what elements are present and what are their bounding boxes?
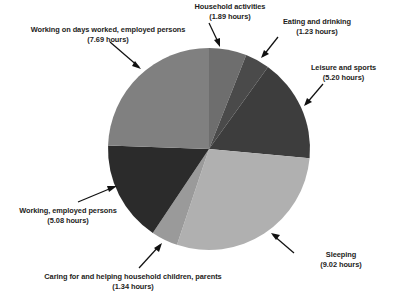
pie-label-caring-for-household-children-name: Caring for and helping household childre… xyxy=(44,272,221,281)
pie-label-working-employed-persons-name: Working, employed persons xyxy=(19,206,117,215)
pie-label-working-on-days-worked: Working on days worked, employed persons… xyxy=(3,25,213,45)
pie-slice-group xyxy=(108,48,310,250)
pie-label-working-on-days-worked-name: Working on days worked, employed persons xyxy=(31,25,186,34)
pie-chart: Working on days worked, employed persons… xyxy=(0,0,393,297)
pie-label-sleeping-name: Sleeping xyxy=(326,250,356,259)
pie-label-caring-for-household-children-value: (1.34 hours) xyxy=(18,282,248,292)
arrowhead-eating xyxy=(261,50,269,58)
pie-label-sleeping-value: (9.02 hours) xyxy=(295,260,387,270)
pie-label-sleeping: Sleeping (9.02 hours) xyxy=(295,250,387,270)
pie-label-eating-and-drinking-value: (1.23 hours) xyxy=(258,27,376,37)
pie-label-working-employed-persons-value: (5.08 hours) xyxy=(2,216,134,226)
pie-label-eating-and-drinking: Eating and drinking (1.23 hours) xyxy=(258,17,376,37)
pie-label-eating-and-drinking-name: Eating and drinking xyxy=(283,17,351,26)
arrowhead-working-emp xyxy=(107,186,117,192)
arrowhead-sleeping xyxy=(271,233,280,240)
pie-label-leisure-and-sports-value: (5.20 hours) xyxy=(296,73,391,83)
pie-label-leisure-and-sports-name: Leisure and sports xyxy=(311,63,376,72)
pie-label-caring-for-household-children: Caring for and helping household childre… xyxy=(18,272,248,292)
pie-slice xyxy=(108,48,209,149)
pie-label-working-employed-persons: Working, employed persons (5.08 hours) xyxy=(2,206,134,226)
pie-label-leisure-and-sports: Leisure and sports (5.20 hours) xyxy=(296,63,391,83)
pie-label-household-activities-name: Household activities xyxy=(195,2,266,11)
arrowhead-household xyxy=(214,38,220,47)
pie-label-working-on-days-worked-value: (7.69 hours) xyxy=(3,35,213,45)
